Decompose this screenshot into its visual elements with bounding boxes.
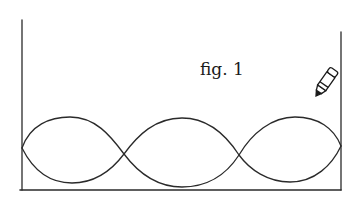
wave-lower xyxy=(22,146,341,187)
pencil-icon xyxy=(312,67,339,99)
standing-wave-diagram xyxy=(0,0,362,206)
wave-upper xyxy=(22,117,341,155)
figure-caption: fig. 1 xyxy=(200,59,244,79)
